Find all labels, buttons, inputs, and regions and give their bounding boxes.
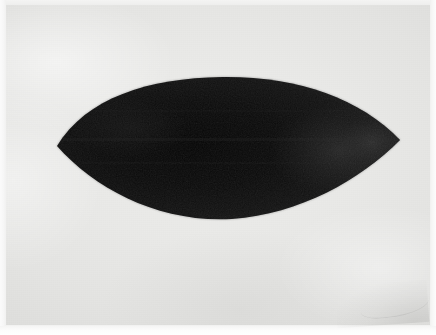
- sheet-margin-left: [0, 0, 6, 335]
- sheet-margin-bottom: [0, 326, 436, 335]
- sheet-margin-top: [0, 0, 436, 5]
- artwork-frame: [0, 0, 436, 335]
- sheet-margin-right: [430, 0, 436, 335]
- lens-charcoal-grain: [40, 60, 420, 240]
